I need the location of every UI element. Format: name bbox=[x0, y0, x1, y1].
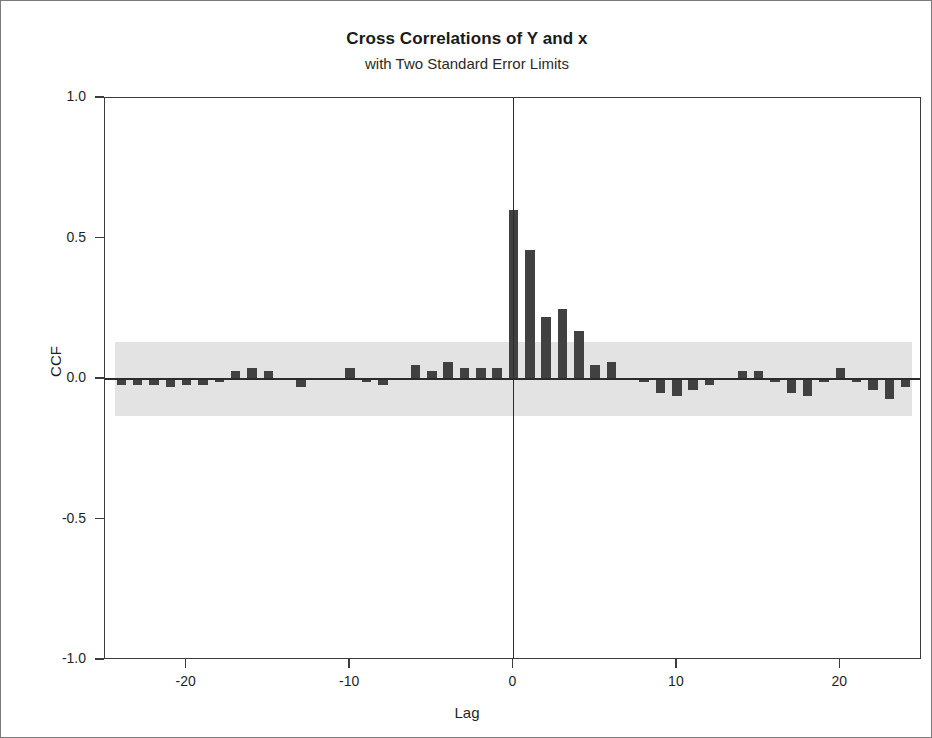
x-axis-label: Lag bbox=[1, 704, 932, 721]
ccf-bar bbox=[296, 379, 306, 387]
y-axis-tick bbox=[95, 658, 104, 660]
x-axis-tick bbox=[675, 659, 677, 668]
ccf-bar bbox=[525, 250, 535, 379]
ccf-bar bbox=[574, 331, 584, 379]
plot-area bbox=[104, 97, 921, 659]
x-axis-tick-label: 0 bbox=[483, 673, 543, 689]
y-axis-tick-label: -0.5 bbox=[16, 510, 86, 526]
y-axis-tick bbox=[95, 96, 104, 98]
chart-title: Cross Correlations of Y and x bbox=[1, 29, 932, 49]
y-axis-tick bbox=[95, 377, 104, 379]
y-axis-tick-label: -1.0 bbox=[16, 650, 86, 666]
ccf-bar bbox=[803, 379, 813, 396]
x-axis-tick-label: -10 bbox=[319, 673, 379, 689]
ccf-bar bbox=[198, 379, 208, 385]
ccf-bar bbox=[133, 379, 143, 385]
ccf-bar bbox=[443, 362, 453, 379]
y-axis-tick bbox=[95, 237, 104, 239]
chart-subtitle: with Two Standard Error Limits bbox=[1, 55, 932, 72]
x-axis-tick bbox=[512, 659, 514, 668]
ccf-bar bbox=[656, 379, 666, 393]
ccf-bar bbox=[901, 379, 911, 387]
ccf-bar bbox=[541, 317, 551, 379]
ccf-bar bbox=[558, 309, 568, 379]
y-axis-tick bbox=[95, 518, 104, 520]
lag-zero-line bbox=[513, 98, 515, 658]
ccf-bar bbox=[885, 379, 895, 399]
chart-page: Cross Correlations of Y and x with Two S… bbox=[0, 0, 932, 738]
ccf-bar bbox=[868, 379, 878, 390]
ccf-bar bbox=[411, 365, 421, 379]
ccf-bar bbox=[182, 379, 192, 385]
ccf-bar bbox=[149, 379, 159, 385]
x-axis-tick bbox=[185, 659, 187, 668]
x-axis-tick bbox=[839, 659, 841, 668]
ccf-bar bbox=[590, 365, 600, 379]
x-axis-tick bbox=[348, 659, 350, 668]
y-axis-label: CCF bbox=[47, 302, 64, 422]
ccf-bar bbox=[787, 379, 797, 393]
ccf-bar bbox=[117, 379, 127, 385]
x-axis-tick-label: 10 bbox=[646, 673, 706, 689]
y-axis-tick-label: 1.0 bbox=[16, 88, 86, 104]
x-axis-tick-label: -20 bbox=[156, 673, 216, 689]
ccf-bar bbox=[378, 379, 388, 385]
y-axis-tick-label: 0.5 bbox=[16, 229, 86, 245]
ccf-bar bbox=[166, 379, 176, 387]
ccf-bar bbox=[688, 379, 698, 390]
x-axis-tick-label: 20 bbox=[809, 673, 869, 689]
ccf-bar bbox=[705, 379, 715, 385]
ccf-bar bbox=[672, 379, 682, 396]
ccf-bar bbox=[607, 362, 617, 379]
plot-inner bbox=[105, 98, 920, 658]
